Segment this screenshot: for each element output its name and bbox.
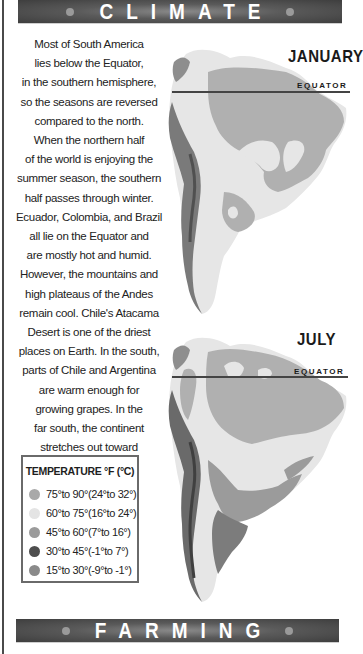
legend-item: 75°to 90°(24°to 32°) <box>29 485 136 503</box>
text-line: Ecuador, Colombia, and Brazil <box>14 208 164 227</box>
text-line: Most of South America <box>14 35 164 54</box>
banner-dot-icon <box>62 627 70 635</box>
text-line: in the southern hemisphere, <box>14 73 164 92</box>
text-line: compared to the north. <box>14 112 164 131</box>
text-line: lies below the Equator, <box>14 54 164 73</box>
legend-item: 30°to 45°(-1°to 7°) <box>29 542 128 560</box>
map-label-july: JULY <box>297 329 336 348</box>
climate-section-banner: CLIMATE <box>18 0 342 24</box>
swatch-mild-icon <box>29 527 40 538</box>
legend-label: 60°to 75°(16°to 24°) <box>46 507 136 519</box>
legend-title: TEMPERATURE °F (°C) <box>23 465 137 477</box>
banner-dot-icon <box>66 8 74 16</box>
text-line: When the northern half <box>14 131 164 150</box>
text-line: half passes through winter. <box>14 189 164 208</box>
text-line: summer season, the southern <box>14 169 164 188</box>
text-line: Desert is one of the driest <box>14 323 164 342</box>
text-line: are warm enough for <box>14 381 164 400</box>
text-line: high plateaus of the Andes <box>14 285 164 304</box>
text-line: growing grapes. In the <box>14 400 164 419</box>
banner-dot-icon <box>286 8 294 16</box>
equator-label-january: EQUATOR <box>297 81 347 90</box>
climate-body-text: Most of South America lies below the Equ… <box>14 35 164 477</box>
swatch-cold-icon <box>29 546 40 557</box>
swatch-hot-icon <box>29 489 40 500</box>
text-line: remain cool. Chile's Atacama <box>14 304 164 323</box>
text-line: are mostly hot and humid. <box>14 246 164 265</box>
legend-label: 30°to 45°(-1°to 7°) <box>46 545 128 557</box>
equator-line-january <box>172 91 350 93</box>
swatch-cool-icon <box>29 565 40 576</box>
text-line: parts of Chile and Argentina <box>14 361 164 380</box>
equator-label-july: EQUATOR <box>294 367 344 376</box>
page-left-rule <box>2 0 4 654</box>
legend-item: 60°to 75°(16°to 24°) <box>29 504 136 522</box>
text-line: places on Earth. In the south, <box>14 342 164 361</box>
text-line: so the seasons are reversed <box>14 93 164 112</box>
text-line: all lie on the Equator and <box>14 227 164 246</box>
section-title-farming: FARMING <box>82 618 274 643</box>
farming-section-banner: FARMING <box>16 619 339 643</box>
legend-item: 45°to 60°(7°to 16°) <box>29 523 131 541</box>
map-label-january: JANUARY <box>288 46 363 65</box>
legend-label: 15°to 30°(-9°to -1°) <box>46 564 131 576</box>
text-line: However, the mountains and <box>14 265 164 284</box>
banner-dot-icon <box>285 627 293 635</box>
equator-line-july <box>172 376 348 378</box>
text-line: of the world is enjoying the <box>14 150 164 169</box>
legend-label: 45°to 60°(7°to 16°) <box>46 526 131 538</box>
legend-item: 15°to 30°(-9°to -1°) <box>29 561 131 579</box>
section-title-climate: CLIMATE <box>86 0 273 24</box>
legend-label: 75°to 90°(24°to 32°) <box>46 488 136 500</box>
swatch-warm-icon <box>29 508 40 519</box>
temperature-legend: TEMPERATURE °F (°C) 75°to 90°(24°to 32°)… <box>21 455 139 583</box>
text-line: far south, the continent <box>14 419 164 438</box>
